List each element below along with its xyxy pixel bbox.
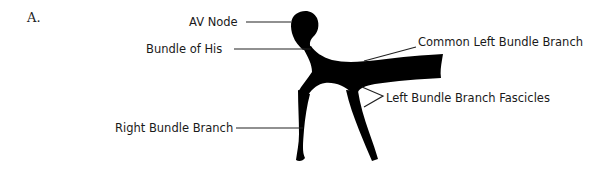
left-bundle-branch-fascicles-label: Left Bundle Branch Fascicles: [386, 91, 550, 105]
common-left-bundle-branch-label: Common Left Bundle Branch: [418, 35, 583, 49]
right-bundle-branch-label: Right Bundle Branch: [115, 121, 233, 135]
bundle-of-his-shape: [298, 46, 443, 95]
conduction-system-illustration: [0, 0, 603, 170]
av-node-shape: [291, 11, 318, 50]
right-bundle-branch-shape: [296, 90, 310, 161]
left-fascicle-shape: [346, 90, 378, 161]
conduction-structure: [291, 11, 443, 161]
left-bundle-branch-fascicles-leader: [362, 87, 383, 107]
bundle-of-his-label: Bundle of His: [146, 42, 222, 56]
av-node-label: AV Node: [189, 15, 238, 29]
